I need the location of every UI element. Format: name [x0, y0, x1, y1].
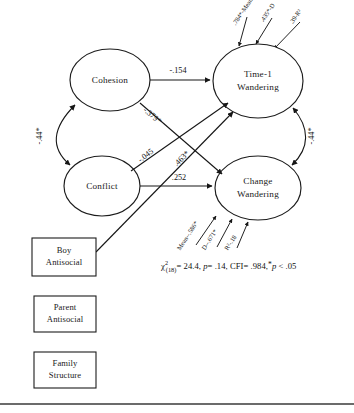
cfi-value: = .984, — [243, 261, 268, 271]
family-structure-label-line1: Family — [53, 358, 79, 368]
family-structure-label-line2: Structure — [49, 370, 81, 380]
latent-node-conflict[interactable]: Conflict — [64, 156, 140, 216]
indicator-arrow-time1-mean — [239, 17, 247, 46]
time1-wandering-ellipse — [213, 44, 303, 118]
residual-arrows-change: Mean--.586* D--.671* R²-.18 — [175, 216, 248, 251]
significance-p: p — [272, 261, 276, 271]
degrees-of-freedom: (18) — [166, 266, 177, 273]
path-cohesion-to-time1: -.154 — [150, 66, 210, 80]
path-label-conflict-time1: -.045 — [136, 147, 155, 165]
indicator-arrow-change-r2 — [237, 222, 248, 248]
parent-antisocial-label-line1: Parent — [54, 302, 77, 312]
path-conflict-to-change: .252 — [140, 173, 212, 186]
residual-label-change-mean: Mean--.586* — [175, 220, 199, 252]
change-wandering-label-line1: Change — [243, 176, 272, 186]
chi-exponent: 2 — [165, 259, 168, 266]
latent-node-change-wandering[interactable]: Change Wandering — [215, 156, 301, 220]
diagram-canvas: .784*-Mean .435*-D .39-R² Cohesion Confl… — [0, 0, 354, 413]
path-label-cohesion-change: -.379* — [141, 105, 163, 125]
change-wandering-label-line2: Wandering — [237, 189, 279, 199]
boy-antisocial-label-line2: Antisocial — [46, 257, 83, 267]
cohesion-label: Cohesion — [92, 75, 129, 85]
latent-node-time1-wandering[interactable]: Time-1 Wandering — [213, 44, 303, 118]
p-value: = .14, — [208, 261, 228, 271]
cfi-label: CFI — [230, 261, 244, 271]
boy-antisocial-label-line1: Boy — [57, 245, 72, 255]
path-diagram-figure: .784*-Mean .435*-D .39-R² Cohesion Confl… — [0, 0, 354, 413]
residual-label-change-r2: R²-.18 — [223, 234, 238, 251]
observed-box-family-structure[interactable]: Family Structure — [34, 352, 96, 388]
chi-value: = 24.4, — [176, 261, 201, 271]
residual-label-time1-mean: .784*-Mean — [231, 0, 255, 26]
correlation-label-cohesion-conflict: -.44* — [35, 127, 44, 144]
observed-box-boy-antisocial[interactable]: Boy Antisocial — [32, 238, 96, 276]
conflict-label: Conflict — [86, 181, 118, 191]
significance-threshold: < .05 — [278, 261, 296, 271]
parent-antisocial-label-line2: Antisocial — [47, 314, 84, 324]
residual-arrows-time1: .784*-Mean .435*-D .39-R² — [231, 0, 303, 49]
time1-wandering-label-line2: Wandering — [237, 82, 279, 92]
correlation-curve-cohesion-conflict — [56, 105, 75, 165]
path-label-cohesion-time1: -.154 — [169, 66, 186, 75]
observed-box-parent-antisocial[interactable]: Parent Antisocial — [34, 296, 96, 332]
fit-statistics-line: χ2(18)= 24.4, p= .14, CFI= .984,*p < .05 — [161, 259, 296, 273]
correlation-curve-time1-change — [292, 108, 306, 165]
residual-label-time1-d: .435*-D — [258, 1, 276, 23]
correlation-label-time1-change: -.44* — [307, 127, 316, 144]
change-wandering-ellipse — [215, 156, 301, 220]
correlation-time1-change: -.44* — [292, 108, 316, 165]
path-label-conflict-change: .252 — [172, 173, 186, 182]
latent-node-cohesion[interactable]: Cohesion — [70, 49, 150, 111]
indicator-arrow-time1-r2 — [274, 22, 300, 49]
residual-label-time1-r2: .39-R² — [288, 8, 303, 25]
residual-label-change-d: D--.671* — [200, 228, 219, 251]
correlation-cohesion-conflict: -.44* — [35, 105, 75, 165]
time1-wandering-label-line1: Time-1 — [244, 69, 272, 79]
